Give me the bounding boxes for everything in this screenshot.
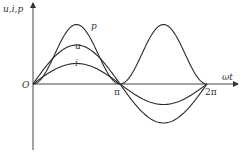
y-axis-label: u,i,p: [3, 4, 23, 14]
series-label-i: i: [75, 58, 78, 68]
waveform-diagram: u,i,p ωt O π 2π p u i: [0, 0, 241, 154]
series-label-u: u: [75, 41, 81, 51]
series-label-p: p: [91, 21, 97, 31]
x-tick-2pi: 2π: [205, 87, 217, 97]
x-tick-pi: π: [114, 87, 120, 97]
curve-p: [33, 25, 207, 84]
origin-label: O: [22, 80, 30, 90]
x-axis-label: ωt: [222, 72, 233, 82]
